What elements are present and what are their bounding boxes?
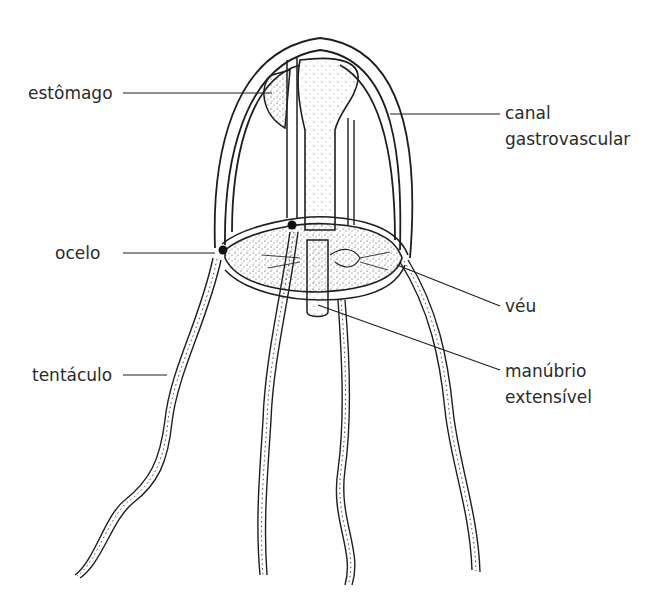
jellyfish-diagram: estômago ocelo tentáculo canal gastrovas… bbox=[0, 0, 667, 605]
label-canal-line1: canal bbox=[505, 100, 551, 126]
label-stomach: estômago bbox=[28, 80, 113, 106]
ocellus-dot bbox=[288, 221, 297, 230]
leader-manubrium bbox=[318, 305, 500, 370]
label-velum: véu bbox=[505, 293, 536, 319]
label-manubrium-line1: manúbrio bbox=[505, 358, 586, 384]
label-tentacle: tentáculo bbox=[32, 362, 112, 388]
ocellus-dot bbox=[219, 246, 228, 255]
label-manubrium-line2: extensível bbox=[505, 384, 592, 410]
label-canal-line2: gastrovascular bbox=[505, 126, 630, 152]
stomach bbox=[264, 70, 290, 128]
manubrium-tube bbox=[307, 240, 328, 317]
manubrium bbox=[298, 58, 358, 230]
label-ocellus: ocelo bbox=[55, 240, 100, 266]
